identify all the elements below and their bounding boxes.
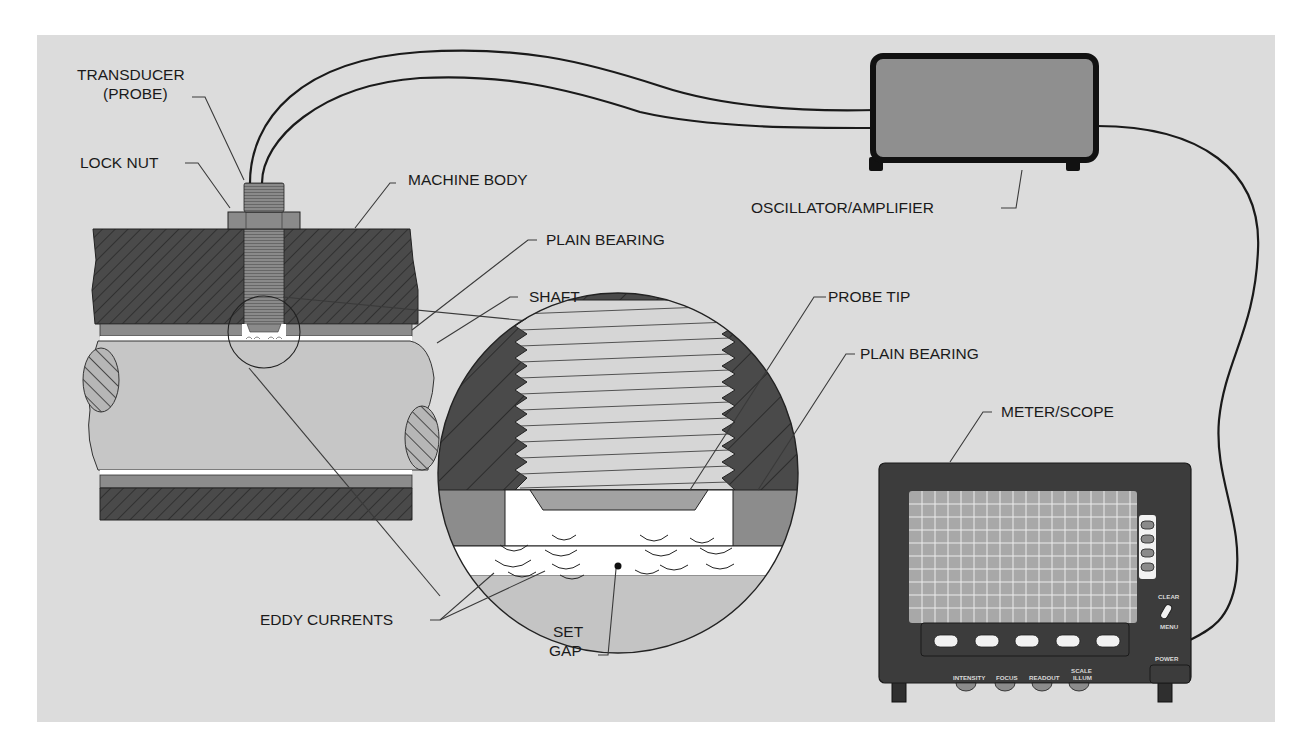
scale-label: SCALE	[1071, 667, 1092, 674]
oscillator-amplifier	[869, 56, 1096, 171]
label-oscillator-amplifier: OSCILLATOR/AMPLIFIER	[751, 199, 934, 216]
soft-key-5[interactable]	[1096, 635, 1120, 647]
soft-key-1[interactable]	[934, 635, 958, 647]
machine-body-lower	[100, 488, 412, 520]
label-lock-nut: LOCK NUT	[80, 154, 159, 171]
label-machine-body: MACHINE BODY	[408, 171, 528, 188]
machine-cross-section	[83, 183, 439, 520]
side-key-3[interactable]	[1141, 549, 1154, 557]
readout-label: READOUT	[1029, 674, 1060, 681]
shaft-section-left	[83, 348, 119, 412]
side-key-4[interactable]	[1141, 563, 1154, 571]
shaft	[88, 341, 434, 470]
side-key-1[interactable]	[1141, 521, 1154, 529]
soft-key-2[interactable]	[975, 635, 999, 647]
shaft-section-right	[405, 406, 439, 470]
intensity-label: INTENSITY	[953, 674, 986, 681]
plain-bearing-lower	[100, 475, 412, 488]
power-label: POWER	[1155, 655, 1179, 662]
clear-label: CLEAR	[1158, 593, 1180, 600]
power-switch[interactable]	[1150, 665, 1190, 683]
eddy-current-probe-diagram: CLEAR MENU POWER INTENSITY FOCUS READOUT…	[0, 0, 1311, 748]
scope-screen	[909, 491, 1137, 623]
soft-key-4[interactable]	[1056, 635, 1080, 647]
probe-body	[244, 229, 284, 329]
lock-nut	[228, 212, 300, 229]
label-eddy-currents: EDDY CURRENTS	[260, 611, 393, 628]
soft-key-3[interactable]	[1015, 635, 1039, 647]
label-transducer: TRANSDUCER	[77, 66, 185, 83]
set-gap-dot	[615, 563, 622, 570]
menu-label: MENU	[1160, 623, 1179, 630]
side-key-2[interactable]	[1141, 535, 1154, 543]
label-probe-tip: PROBE TIP	[828, 288, 910, 305]
label-gap: GAP	[549, 642, 582, 659]
illum-label: ILLUM	[1073, 674, 1092, 681]
label-meter-scope: METER/SCOPE	[1001, 403, 1114, 420]
meter-scope: CLEAR MENU POWER INTENSITY FOCUS READOUT…	[879, 463, 1191, 702]
focus-label: FOCUS	[996, 674, 1018, 681]
label-plain-bearing-top: PLAIN BEARING	[546, 231, 665, 248]
label-shaft: SHAFT	[529, 288, 580, 305]
set-gap	[430, 546, 810, 576]
label-set: SET	[553, 623, 584, 640]
label-plain-bearing-detail: PLAIN BEARING	[860, 345, 979, 362]
label-probe: (PROBE)	[103, 85, 168, 102]
probe-tip	[530, 490, 708, 510]
probe-head	[244, 183, 284, 212]
